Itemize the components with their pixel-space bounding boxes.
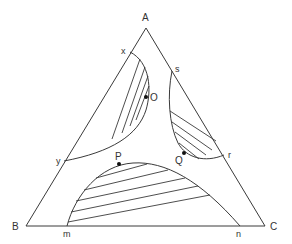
label-vertex-a: A	[142, 12, 149, 23]
tie-line	[96, 164, 147, 178]
label-q: Q	[175, 155, 183, 166]
label-p: P	[115, 151, 122, 162]
point-p	[117, 162, 121, 166]
label-s: s	[175, 64, 180, 74]
region-xy	[64, 52, 149, 161]
edge-ab	[26, 28, 146, 226]
label-o: O	[150, 92, 158, 103]
tie-line	[71, 186, 198, 212]
tie-line	[172, 122, 212, 150]
label-r: r	[228, 150, 231, 160]
region-mn-boundary	[67, 163, 240, 226]
point-o	[144, 95, 148, 99]
label-vertex-b: B	[12, 221, 19, 232]
label-vertex-c: C	[270, 221, 277, 232]
tie-line	[84, 170, 168, 190]
region-mn	[67, 162, 240, 226]
ternary-diagram: A B C x y s r m n O P Q	[0, 0, 292, 244]
label-y: y	[56, 156, 61, 166]
label-n: n	[236, 229, 241, 239]
label-x: x	[121, 46, 126, 56]
region-sr-boundary	[169, 71, 224, 159]
region-xy-boundary	[64, 52, 149, 161]
region-sr	[169, 71, 224, 159]
label-m: m	[63, 229, 71, 239]
tie-line	[112, 59, 140, 139]
